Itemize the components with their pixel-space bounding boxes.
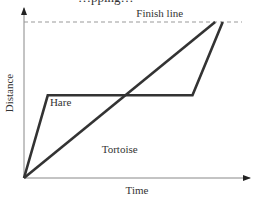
hare-tortoise-diagram: …pping… HareTortoiseFinish line Distance…	[0, 0, 260, 203]
clipped-caption-fragment: …pping…	[78, 0, 134, 5]
annotation-hare: Hare	[50, 96, 71, 108]
x-axis-label: Time	[126, 184, 149, 196]
y-axis-label: Distance	[3, 74, 15, 113]
annotation-finish-line: Finish line	[136, 7, 183, 19]
annotation-tortoise: Tortoise	[102, 143, 138, 155]
